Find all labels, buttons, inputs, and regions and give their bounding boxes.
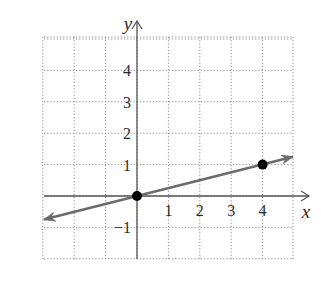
y-tick-label: −1 bbox=[114, 219, 131, 236]
x-axis-label: x bbox=[301, 201, 311, 222]
x-tick-label: 4 bbox=[259, 202, 267, 219]
tick-labels: 12344321−1xy bbox=[114, 13, 311, 236]
data-point bbox=[258, 160, 268, 170]
y-tick-label: 2 bbox=[123, 125, 131, 142]
x-tick-label: 1 bbox=[164, 202, 172, 219]
data-point bbox=[132, 191, 142, 201]
grid bbox=[43, 37, 293, 259]
y-tick-label: 3 bbox=[123, 94, 131, 111]
y-axis-label: y bbox=[122, 13, 133, 34]
x-tick-label: 3 bbox=[227, 202, 235, 219]
y-tick-label: 4 bbox=[123, 62, 131, 79]
coordinate-plane: 12344321−1xy bbox=[0, 0, 321, 299]
x-tick-label: 2 bbox=[196, 202, 204, 219]
y-tick-label: 1 bbox=[123, 157, 131, 174]
axes bbox=[44, 21, 309, 259]
